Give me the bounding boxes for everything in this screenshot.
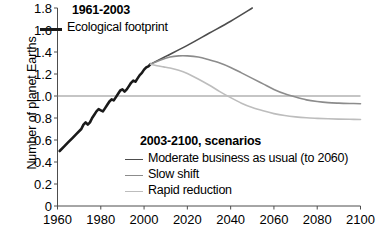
- series-line: [60, 64, 151, 151]
- y-tick-label: 0.6: [6, 134, 52, 147]
- legend-swatch: [125, 159, 143, 160]
- historical-heading: 1961-2003: [72, 3, 130, 17]
- y-tick-label: 1.2: [6, 68, 52, 81]
- scenarios-heading: 2003-2100, scenarios: [140, 134, 261, 148]
- legend-swatch: [125, 175, 143, 176]
- y-tick-label: 1.0: [6, 90, 52, 103]
- y-tick-label: 1.8: [6, 2, 52, 15]
- series-line: [151, 64, 361, 119]
- x-axis-tick-labels: 19601980200020202040206020802100: [0, 208, 369, 230]
- series-line: [151, 8, 253, 64]
- legend-swatch: [40, 28, 62, 31]
- x-tick-label: 2100: [335, 212, 380, 227]
- legend-label: Rapid reduction: [148, 183, 232, 197]
- y-tick-label: 0.2: [6, 178, 52, 191]
- legend-swatch: [125, 191, 143, 192]
- y-tick-label: 0.4: [6, 156, 52, 169]
- y-tick-label: 0.8: [6, 112, 52, 125]
- y-axis-tick-labels: 00.20.40.60.81.01.21.41.61.8: [0, 0, 52, 230]
- legend-label: Ecological footprint: [67, 20, 168, 34]
- y-tick-label: 1.4: [6, 46, 52, 59]
- legend-label: Moderate business as usual (to 2060): [148, 151, 348, 165]
- legend-label: Slow shift: [148, 167, 199, 181]
